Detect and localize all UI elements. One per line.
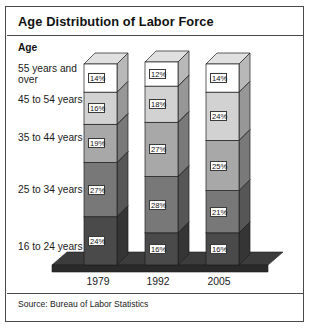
- segment-value-label: 24%: [88, 236, 105, 246]
- segment-value-label: 21%: [210, 207, 227, 217]
- segment-value-label: 16%: [149, 244, 166, 254]
- segment-value-label: 14%: [88, 73, 105, 83]
- axis-tick-1979: 1979: [68, 276, 128, 287]
- segment-value-label: 27%: [88, 185, 105, 195]
- bars-layer: [52, 51, 283, 272]
- segment-value-label: 28%: [149, 200, 166, 210]
- segment-value-label: 25%: [210, 161, 227, 171]
- source-divider: [7, 293, 304, 294]
- source-note: Source: Bureau of Labor Statistics: [18, 299, 148, 309]
- chart-frame: Age Distribution of Labor Force Age 55 y…: [5, 6, 304, 322]
- segment-value-label: 16%: [88, 103, 105, 113]
- segment-value-label: 19%: [88, 138, 105, 148]
- axis-tick-2005: 2005: [189, 276, 249, 287]
- segment-value-label: 16%: [210, 244, 227, 254]
- segment-value-label: 27%: [149, 144, 166, 154]
- segment-value-label: 14%: [210, 73, 227, 83]
- segment-value-label: 18%: [149, 99, 166, 109]
- segment-value-label: 12%: [149, 69, 166, 79]
- segment-value-label: 24%: [210, 111, 227, 121]
- axis-tick-1992: 1992: [128, 276, 188, 287]
